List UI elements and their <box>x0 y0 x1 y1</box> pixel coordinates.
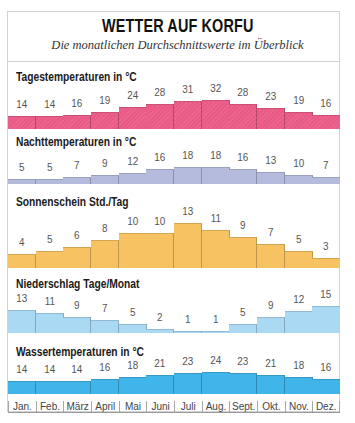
precipitation-value-label: 9 <box>65 300 90 311</box>
sunshine-value-label: 3 <box>314 241 339 252</box>
precipitation-value-label: 2 <box>148 312 173 323</box>
day-temperature-value-label: 16 <box>65 98 90 109</box>
water-temperature-value-label: 21 <box>258 358 283 369</box>
sunshine-bar <box>312 258 340 269</box>
header-divider <box>8 61 340 62</box>
water-temperature-bar <box>36 381 64 394</box>
sunshine-value-label: 5 <box>286 234 311 245</box>
day-temperature-value-label: 19 <box>286 95 311 106</box>
precipitation-bar <box>285 311 313 333</box>
month-axis: Jan.Feb.MärzAprilMaiJuniJuliAug.Sept.Okt… <box>8 401 340 413</box>
day-temperature-value-label: 28 <box>231 87 256 98</box>
night-temperature-value-label: 7 <box>65 160 90 171</box>
day-temperature-value-label: 16 <box>314 98 339 109</box>
sunshine-bar <box>63 247 91 268</box>
precipitation-value-label: 11 <box>37 296 62 307</box>
day-temperature-bar <box>8 116 36 129</box>
day-temperature-value-label: 31 <box>175 84 200 95</box>
page-title: WETTER AUF KORFU <box>102 16 254 36</box>
sunshine-value-label: 5 <box>37 234 62 245</box>
night-temperature-value-label: 7 <box>314 160 339 171</box>
section-title-sunshine: Sonnenschein Std./Tag <box>16 195 129 209</box>
precipitation-bar <box>257 317 285 333</box>
water-temperature-bar <box>146 375 174 394</box>
night-temperature-bar <box>91 175 119 184</box>
sunshine-value-label: 13 <box>175 206 200 217</box>
water-temperature-value-label: 18 <box>120 360 145 371</box>
precipitation-bar <box>202 331 230 333</box>
night-temperature-value-label: 9 <box>92 158 117 169</box>
night-temperature-value-label: 13 <box>258 155 283 166</box>
night-temperature-bar <box>8 179 36 184</box>
page-subtitle: Die monatlichen Durchschnittswerte im Üb… <box>0 38 355 53</box>
night-temperature-bar <box>63 177 91 184</box>
sunshine-bar <box>146 233 174 268</box>
precipitation-value-label: 9 <box>258 300 283 311</box>
night-temperature-bar <box>312 177 340 184</box>
night-temperature-value-label: 12 <box>120 156 145 167</box>
sunshine-bar <box>229 237 257 269</box>
night-temperature-bar <box>257 172 285 184</box>
precipitation-bar <box>174 331 202 333</box>
night-temperature-value-label: 16 <box>148 152 173 163</box>
day-temperature-bar <box>36 116 64 129</box>
sunshine-value-label: 4 <box>9 237 34 248</box>
month-label: Aug. <box>202 401 230 412</box>
day-temperature-value-label: 14 <box>9 99 34 110</box>
night-temperature-bar <box>119 173 147 184</box>
day-temperature-value-label: 23 <box>258 91 283 102</box>
day-temperature-value-label: 24 <box>120 90 145 101</box>
precipitation-value-label: 5 <box>120 307 145 318</box>
water-temperature-bar <box>174 373 202 394</box>
water-temperature-value-label: 14 <box>37 364 62 375</box>
sunshine-bar <box>285 251 313 269</box>
month-label: Nov. <box>285 401 313 412</box>
precipitation-value-label: 15 <box>314 289 339 300</box>
day-temperature-value-label: 28 <box>148 87 173 98</box>
section-title-precipitation: Niederschlag Tage/Monat <box>16 277 139 291</box>
sunshine-value-label: 6 <box>65 230 90 241</box>
water-temperature-value-label: 16 <box>314 362 339 373</box>
water-temperature-bar <box>285 377 313 394</box>
precipitation-bar <box>36 313 64 333</box>
night-temperature-bar <box>229 169 257 184</box>
day-temperature-value-label: 32 <box>203 83 228 94</box>
precipitation-value-label: 1 <box>203 314 228 325</box>
water-temperature-bar <box>202 372 230 394</box>
precipitation-value-label: 5 <box>231 307 256 318</box>
precipitation-value-label: 7 <box>92 303 117 314</box>
day-temperature-value-label: 19 <box>92 95 117 106</box>
water-temperature-value-label: 21 <box>148 358 173 369</box>
day-temperature-bar <box>257 108 285 129</box>
night-temperature-bar <box>174 167 202 184</box>
water-temperature-bar <box>229 373 257 394</box>
sunshine-value-label: 10 <box>148 216 173 227</box>
precipitation-bar <box>63 317 91 333</box>
night-temperature-value-label: 5 <box>37 162 62 173</box>
precipitation-value-label: 1 <box>175 314 200 325</box>
water-temperature-bar <box>119 377 147 394</box>
day-temperature-bar <box>285 112 313 129</box>
sunshine-bar <box>174 223 202 269</box>
month-label: Sept. <box>229 401 257 412</box>
water-temperature-bar <box>257 375 285 394</box>
sunshine-value-label: 7 <box>258 227 283 238</box>
water-temperature-bar <box>63 381 91 394</box>
sunshine-bar <box>8 254 36 268</box>
water-temperature-bar <box>8 381 36 394</box>
day-temperature-bar <box>146 104 174 129</box>
water-temperature-value-label: 23 <box>175 356 200 367</box>
precipitation-bar <box>91 320 119 333</box>
day-temperature-bar <box>63 115 91 129</box>
night-temperature-value-label: 10 <box>286 158 311 169</box>
night-temperature-value-label: 18 <box>203 150 228 161</box>
day-temperature-bar <box>312 115 340 129</box>
section-title-day-temperature: Tagestemperaturen in °C <box>16 70 137 84</box>
precipitation-bar <box>119 324 147 333</box>
day-temperature-bar <box>229 104 257 129</box>
sunshine-bar <box>119 233 147 268</box>
night-temperature-bar <box>285 175 313 185</box>
day-temperature-value-label: 14 <box>37 99 62 110</box>
month-label: Dez. <box>312 401 340 412</box>
month-label: Mai <box>119 401 147 412</box>
